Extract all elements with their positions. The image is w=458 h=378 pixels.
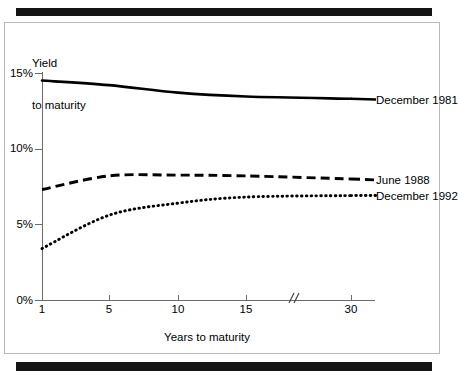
legend-swatch-june-1988 (351, 179, 376, 180)
legend-label-december-1981: December 1981 (376, 94, 458, 106)
series-line-december-1992 (42, 196, 351, 249)
series-line-june-1988 (42, 175, 351, 190)
legend-label-june-1988: June 1988 (376, 174, 430, 186)
legend-label-december-1992: December 1992 (376, 190, 458, 202)
series-line-december-1981 (42, 81, 351, 99)
legend-swatch-december-1981 (351, 99, 376, 100)
